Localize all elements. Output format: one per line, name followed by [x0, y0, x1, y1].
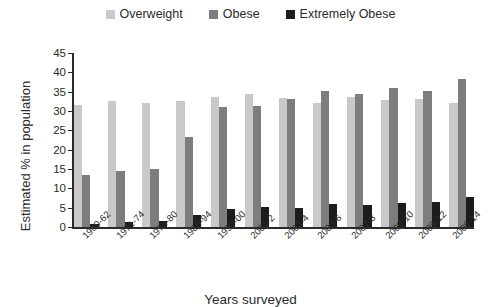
legend-swatch-icon — [106, 10, 115, 19]
bar-group — [245, 53, 270, 227]
bar — [108, 101, 116, 227]
legend-item[interactable]: Overweight — [106, 8, 183, 20]
bar — [74, 105, 82, 227]
y-axis-tick-mark — [68, 150, 73, 151]
x-axis-tick-label: 1960-62 — [74, 230, 104, 290]
legend-label: Extremely Obese — [300, 8, 396, 20]
legend-swatch-icon — [209, 10, 218, 19]
x-axis-tick-label: 2001-2 — [242, 230, 272, 290]
bar — [253, 106, 261, 227]
x-axis-tick-label: 2007-8 — [343, 230, 373, 290]
bar-group — [211, 53, 236, 227]
bar — [389, 88, 397, 227]
legend-item[interactable]: Obese — [209, 8, 260, 20]
bar — [347, 97, 355, 227]
y-axis-tick-label: 25 — [44, 124, 66, 136]
y-axis-tick-label: 30 — [44, 105, 66, 117]
y-axis-tick-label: 10 — [44, 182, 66, 194]
y-axis-tick-mark — [68, 208, 73, 209]
x-axis-tick-label: 2009-14 — [444, 230, 474, 290]
x-axis-tick-label: 1971-74 — [108, 230, 138, 290]
y-axis-tick-label: 20 — [44, 144, 66, 156]
x-axis-tick-label: 1999-00 — [209, 230, 239, 290]
y-axis-tick-mark — [68, 169, 73, 170]
x-axis-tick-label: 2009-10 — [377, 230, 407, 290]
bar — [219, 107, 227, 227]
bar-group — [313, 53, 338, 227]
x-axis-tick-labels: 1960-621971-741976-801988-941999-002001-… — [74, 230, 474, 290]
y-axis-tick-label: 15 — [44, 163, 66, 175]
bar-groups — [74, 53, 474, 227]
y-axis-tick-mark — [68, 53, 73, 54]
x-axis-tick-label: 2005-6 — [309, 230, 339, 290]
bar-group — [279, 53, 304, 227]
bar-group — [74, 53, 99, 227]
chart-legend: OverweightObeseExtremely Obese — [0, 8, 501, 20]
x-axis-tick-label: 2003-4 — [276, 230, 306, 290]
y-axis-tick-label: 35 — [44, 86, 66, 98]
bar-group — [415, 53, 440, 227]
y-axis-tick-label: 40 — [44, 66, 66, 78]
bar — [381, 100, 389, 227]
y-axis-tick-label: 0 — [44, 221, 66, 233]
bar — [185, 137, 193, 227]
bar — [142, 103, 150, 227]
bar — [211, 97, 219, 227]
bar — [245, 94, 253, 227]
legend-item[interactable]: Extremely Obese — [286, 8, 396, 20]
y-axis-tick-mark — [68, 92, 73, 93]
bar — [279, 98, 287, 227]
bar-group — [347, 53, 372, 227]
x-axis-tick-label: 2009-12 — [410, 230, 440, 290]
legend-label: Obese — [223, 8, 260, 20]
bar — [176, 101, 184, 227]
bar — [449, 103, 457, 227]
y-axis-title-text: Estimated % in population — [18, 76, 33, 236]
y-axis-tick-mark — [68, 72, 73, 73]
legend-label: Overweight — [120, 8, 183, 20]
bar — [116, 171, 124, 227]
legend-swatch-icon — [286, 10, 295, 19]
y-axis-tick-labels: 454035302520151050 — [44, 53, 66, 227]
bar-group — [176, 53, 201, 227]
plot-area: Estimated % in population 45403530252015… — [0, 30, 501, 300]
y-axis-tick-label: 5 — [44, 202, 66, 214]
bar — [415, 99, 423, 227]
bar-group — [381, 53, 406, 227]
bar — [458, 79, 466, 227]
y-axis-tick-label: 45 — [44, 47, 66, 59]
bar — [150, 169, 158, 227]
bar-group — [142, 53, 167, 227]
y-axis-title: Estimated % in population — [18, 0, 33, 76]
x-axis-tick-label: 1988-94 — [175, 230, 205, 290]
y-axis-tick-mark — [68, 188, 73, 189]
bar-group — [449, 53, 474, 227]
bar — [82, 175, 90, 227]
bar — [355, 94, 363, 227]
y-axis-tick-mark — [68, 111, 73, 112]
y-axis-tick-mark — [68, 130, 73, 131]
x-axis-tick-label: 1976-80 — [141, 230, 171, 290]
bar — [313, 103, 321, 228]
bar — [423, 91, 431, 227]
x-axis-title: Years surveyed — [0, 292, 501, 307]
bar — [287, 99, 295, 227]
y-axis-tick-mark — [68, 227, 73, 228]
bar-group — [108, 53, 133, 227]
bar — [321, 91, 329, 227]
